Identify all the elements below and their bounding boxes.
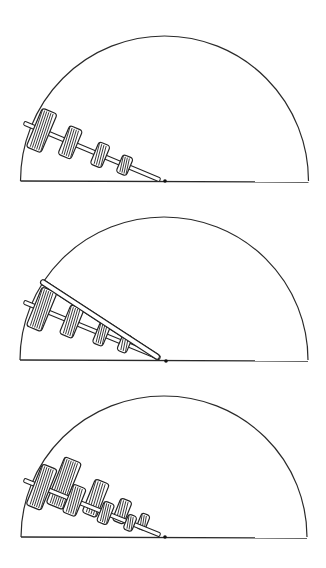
gear-train-diagram [0, 0, 326, 568]
pivot-point [163, 179, 167, 183]
pivot-point [163, 535, 167, 539]
semicircle-arc [20, 217, 308, 360]
panel-1 [21, 36, 309, 183]
gear-1 [26, 108, 57, 153]
pivot-point [164, 359, 168, 363]
gear-body [116, 154, 133, 176]
semicircle-arc [21, 36, 309, 181]
gear-body [90, 142, 110, 169]
gear-2 [58, 125, 83, 159]
lever-bar-front [40, 279, 161, 360]
gear-4 [116, 154, 133, 176]
gear-3 [90, 142, 110, 169]
panel-3 [21, 396, 307, 539]
panel-2 [20, 217, 308, 363]
gear-1 [26, 287, 57, 332]
baseline [20, 360, 308, 361]
